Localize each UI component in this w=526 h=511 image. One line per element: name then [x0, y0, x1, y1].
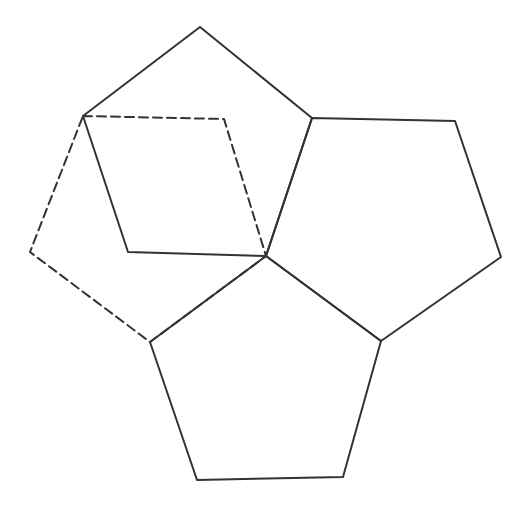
bottom-pentagon [150, 256, 381, 480]
dashed-pentagon [30, 116, 266, 342]
pentagon-shape-layer [30, 27, 501, 480]
right-pentagon [266, 118, 501, 341]
figure-canvas [0, 0, 526, 511]
pentagon-tiling-diagram [0, 0, 526, 511]
